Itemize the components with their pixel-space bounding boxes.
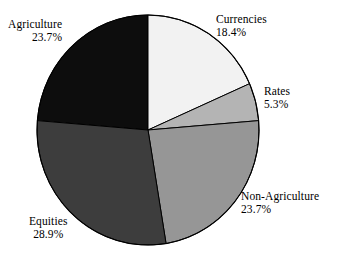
pie-label-non-agriculture-percent: 23.7% [241, 203, 319, 216]
pie-label-currencies-name: Currencies [216, 13, 267, 26]
pie-chart: Agriculture 23.7% Currencies 18.4% Rates… [0, 0, 343, 261]
pie-label-currencies: Currencies 18.4% [216, 13, 267, 39]
pie-label-rates-percent: 5.3% [264, 98, 290, 111]
pie-label-rates-name: Rates [264, 85, 290, 98]
pie-label-equities-percent: 28.9% [29, 228, 68, 241]
pie-label-equities-name: Equities [29, 215, 68, 228]
pie-label-agriculture-percent: 23.7% [8, 31, 62, 44]
pie-slice-non-agriculture[interactable] [148, 121, 259, 244]
pie-label-agriculture: Agriculture 23.7% [8, 18, 62, 44]
pie-label-currencies-percent: 18.4% [216, 26, 267, 39]
pie-label-rates: Rates 5.3% [264, 85, 290, 111]
pie-label-equities: Equities 28.9% [29, 215, 68, 241]
pie-label-agriculture-name: Agriculture [8, 18, 62, 31]
pie-label-non-agriculture-name: Non-Agriculture [241, 190, 319, 203]
pie-label-non-agriculture: Non-Agriculture 23.7% [241, 190, 319, 216]
